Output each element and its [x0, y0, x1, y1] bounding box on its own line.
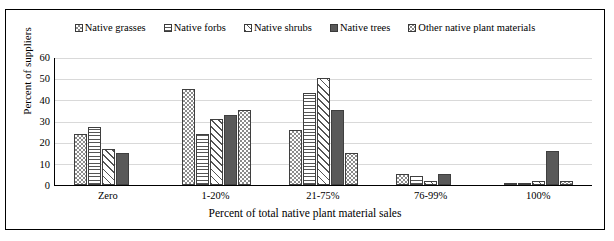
legend-label: Native shrubs — [254, 22, 312, 33]
bar-group — [377, 58, 484, 185]
legend-label: Native grasses — [85, 22, 146, 33]
legend-label: Other native plant materials — [418, 22, 535, 33]
chart-frame: Native grasses Native forbs Native shrub… — [5, 9, 605, 230]
y-axis-tick: 30 — [40, 117, 51, 127]
x-axis-tick-labels: Zero1-20%21-75%76-99%100% — [54, 190, 592, 201]
y-axis-tick: 40 — [40, 96, 51, 106]
y-axis-tick: 0 — [45, 181, 50, 191]
plot-area-wrapper: 0102030405060 — [54, 58, 592, 186]
bar[interactable] — [438, 174, 451, 185]
bar[interactable] — [196, 134, 209, 185]
y-axis-tick: 10 — [40, 160, 51, 170]
y-axis-tick: 50 — [40, 74, 51, 84]
bar[interactable] — [182, 89, 195, 185]
chart-legend: Native grasses Native forbs Native shrub… — [6, 22, 604, 33]
bar[interactable] — [317, 78, 330, 185]
legend-swatch-horizontal-lines-icon — [164, 24, 172, 32]
bar[interactable] — [546, 151, 559, 185]
x-axis-tick: 100% — [484, 190, 592, 201]
bar-group — [270, 58, 377, 185]
plot-area — [54, 58, 592, 186]
bar[interactable] — [560, 181, 573, 185]
y-axis-tick-labels: 0102030405060 — [28, 58, 50, 186]
x-axis-tick: Zero — [54, 190, 162, 201]
legend-swatch-dotted-icon — [408, 24, 416, 32]
legend-label: Native forbs — [174, 22, 226, 33]
bar[interactable] — [532, 181, 545, 185]
legend-item-native-shrubs: Native shrubs — [244, 22, 312, 33]
bar[interactable] — [88, 127, 101, 185]
x-axis-tick: 1-20% — [162, 190, 270, 201]
legend-label: Native trees — [340, 22, 390, 33]
bar[interactable] — [74, 134, 87, 185]
bar[interactable] — [410, 176, 423, 185]
bar[interactable] — [210, 119, 223, 185]
bar[interactable] — [424, 181, 437, 185]
bar[interactable] — [238, 110, 251, 185]
y-axis-tick: 20 — [40, 138, 51, 148]
bar[interactable] — [116, 153, 129, 185]
bar[interactable] — [331, 110, 344, 185]
bar-group — [55, 58, 162, 185]
legend-swatch-diagonal-lines-icon — [244, 24, 252, 32]
legend-item-native-grasses: Native grasses — [75, 22, 146, 33]
bar-groups — [55, 58, 592, 185]
y-axis-tick: 60 — [40, 53, 51, 63]
bar[interactable] — [504, 183, 517, 185]
legend-swatch-solid-dark-icon — [330, 24, 338, 32]
bar[interactable] — [303, 93, 316, 185]
legend-item-native-trees: Native trees — [330, 22, 390, 33]
bar[interactable] — [224, 115, 237, 185]
bar[interactable] — [396, 174, 409, 185]
bar[interactable] — [518, 183, 531, 185]
legend-swatch-checkerboard-icon — [75, 24, 83, 32]
x-axis-tick: 21-75% — [269, 190, 377, 201]
bar-group — [162, 58, 269, 185]
bar[interactable] — [345, 153, 358, 185]
bar[interactable] — [102, 149, 115, 185]
bar[interactable] — [289, 130, 302, 185]
bar-group — [485, 58, 592, 185]
x-axis-tick: 76-99% — [377, 190, 485, 201]
x-axis-title: Percent of total native plant material s… — [6, 207, 604, 219]
legend-item-native-forbs: Native forbs — [164, 22, 226, 33]
legend-item-other-native-plant-materials: Other native plant materials — [408, 22, 535, 33]
